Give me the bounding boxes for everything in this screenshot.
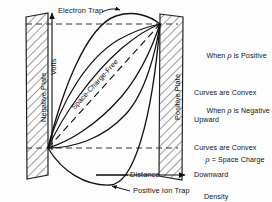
electron-trap-leader xyxy=(102,9,120,12)
positive-plate-label: Positive Plate xyxy=(174,74,182,120)
note-negative-rho-pre: When xyxy=(206,107,227,115)
rho-definition-legend: ρ = Space Charge Density xyxy=(193,128,265,202)
note-positive-rho-pre: When xyxy=(206,52,227,60)
volts-axis-label: Volts xyxy=(50,58,58,75)
electron-trap-label: Electron Trap xyxy=(58,7,103,15)
distance-axis-label: Distance xyxy=(130,171,160,179)
note-negative-rho-post: is Negative xyxy=(232,107,270,115)
negative-plate-label: Negative Plate xyxy=(40,73,48,122)
rho-definition-line2: Density xyxy=(193,193,265,202)
positive-ion-trap-leader xyxy=(112,186,130,191)
note-negative-rho-line1: When ρ is Negative xyxy=(194,97,270,126)
rho-definition-text1: Space Charge xyxy=(218,156,265,164)
space-charge-potential-figure: Negative Plate Positive Plate Volts Elec… xyxy=(0,0,272,202)
note-positive-rho-post: is Positive xyxy=(232,52,267,60)
positive-ion-trap-label: Positive Ion Trap xyxy=(133,187,190,195)
note-positive-rho-line1: When ρ is Positive xyxy=(194,42,267,71)
rho-definition-line1: ρ = Space Charge xyxy=(193,146,265,175)
